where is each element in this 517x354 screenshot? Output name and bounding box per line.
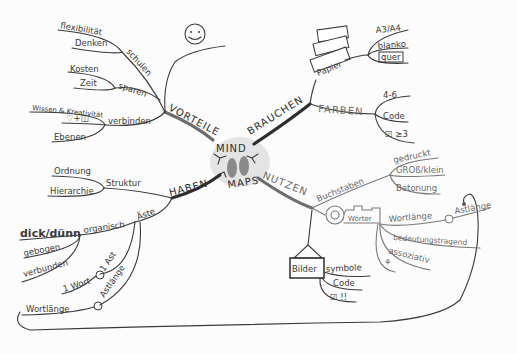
sub-verbinden: verbinden (108, 116, 151, 126)
leaf-check-excl: ☑ !! (330, 292, 347, 302)
leaf-1-wort: 1 Wort (62, 276, 92, 294)
sub-aeste: Äste (135, 206, 156, 222)
sub-farben: FARBEN (318, 103, 364, 117)
leaf-heart-icons: ♡+◫ (66, 113, 89, 123)
leaf-assoziativ: assoziativ (388, 245, 431, 265)
leaf-bedeutungstragend: bedeutungstragend (393, 233, 468, 247)
leaf-organisch: organisch (83, 219, 125, 235)
center-label-mind: MIND (216, 143, 247, 154)
leaf-gebogen: gebogen (23, 242, 61, 258)
leaf-quer: quer (381, 52, 401, 62)
branch-label-vorteile: VORTEILE (167, 102, 222, 138)
leaf-zeit: Zeit (80, 78, 97, 88)
branch-label-haben: HABEN (168, 178, 210, 198)
smiley-icon (185, 24, 205, 44)
leaf-wortlaenge: Wortlänge (26, 304, 70, 314)
leaf-symbole: symbole (326, 262, 362, 274)
leaf-hierarchie: Hierarchie (50, 186, 94, 196)
leaf-ordnung: Ordnung (54, 166, 91, 176)
sub-bilder: Bilder (292, 264, 317, 274)
leaf-4-6: 4-6 (383, 90, 397, 100)
leaf-flexibilitaet: flexibilität (60, 20, 104, 37)
leaf-blanko: blanko (377, 39, 406, 51)
branch-brauchen: BRAUCHEN Papier A3/A4 blanko quer FARBEN… (245, 22, 414, 144)
leaf-code-n: Code (333, 278, 355, 288)
sub-sparen: sparen (117, 80, 148, 98)
sub-struktur: Struktur (106, 178, 141, 188)
leaf-astlaenge-n: Astlänge (454, 200, 492, 216)
branch-vorteile: VORTEILE schulen flexibilität Denken spa… (30, 20, 225, 142)
leaf-ebenen: Ebenen (54, 132, 86, 142)
leaf-denken: Denken (75, 38, 107, 48)
leaf-check-3: ☑ ≥3 (385, 129, 408, 139)
sub-schulen: schulen (125, 47, 154, 78)
leaf-gross-klein: GROß/klein (396, 165, 444, 175)
leaf-wortlaenge-n: Wortlänge (388, 210, 432, 224)
leaf-dick-duenn: dick/dünn (20, 227, 81, 240)
leaf-kosten: Kosten (70, 64, 99, 74)
center-node: MIND MAPS (210, 137, 270, 190)
sub-woerter: Wörter (348, 215, 372, 223)
mind-map-canvas: MIND MAPS VORTEILE schulen flexibilität … (0, 0, 517, 354)
leaf-betonung: Betonung (396, 183, 437, 193)
branch-nutzen: NUTZEN Buchstaben gedruckt GROß/klein Be… (258, 147, 492, 302)
leaf-code: Code (383, 111, 405, 121)
sub-buchstaben: Buchstaben (315, 176, 365, 204)
leaf-verbunden: verbunden (22, 257, 69, 279)
mind-map-drawing: MIND MAPS VORTEILE schulen flexibilität … (0, 0, 517, 354)
leaf-flower-icon: ⚘ (384, 257, 392, 267)
